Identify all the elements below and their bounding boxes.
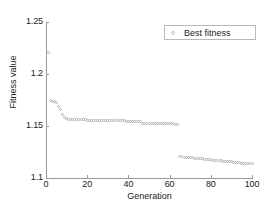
x-tick-label: 100 xyxy=(237,179,267,189)
fitness-convergence-chart: 1.11.151.21.25020406080100 Fitness value… xyxy=(0,0,268,215)
data-point xyxy=(59,108,62,111)
y-tick-label: 1.2 xyxy=(31,68,43,78)
legend: Best fitness xyxy=(164,25,256,40)
data-point xyxy=(176,123,179,126)
y-tick-label: 1.25 xyxy=(26,16,43,26)
y-tick-label: 1.15 xyxy=(26,120,43,130)
x-tick-label: 0 xyxy=(31,179,61,189)
plot-area xyxy=(46,22,252,178)
data-point xyxy=(251,162,254,165)
y-axis-title: Fitness value xyxy=(8,37,18,127)
x-axis-title: Generation xyxy=(46,191,253,201)
open-circle-marker-icon xyxy=(171,31,175,35)
x-tick-label: 60 xyxy=(155,179,185,189)
data-point xyxy=(47,51,50,54)
x-tick xyxy=(252,175,253,178)
data-point xyxy=(55,101,58,104)
x-tick-label: 40 xyxy=(113,179,143,189)
data-point xyxy=(57,105,60,108)
x-tick-label: 20 xyxy=(72,179,102,189)
x-tick-label: 80 xyxy=(196,179,226,189)
legend-label: Best fitness xyxy=(184,28,231,38)
